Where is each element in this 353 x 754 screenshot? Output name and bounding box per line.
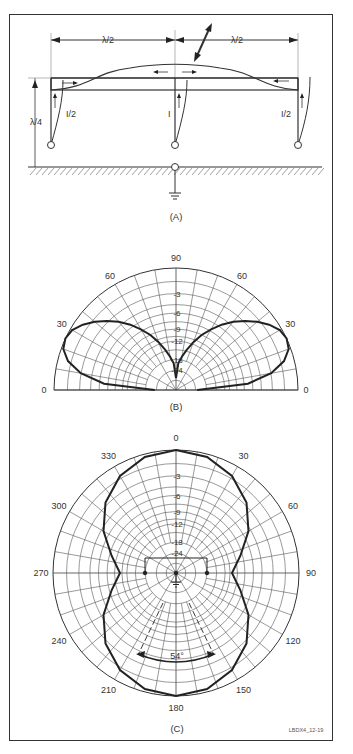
- angle-label: 270: [33, 568, 48, 578]
- db-ring-label: -24: [171, 366, 183, 375]
- height-label: λ/4: [30, 117, 42, 127]
- arrowhead-icon: [136, 651, 145, 658]
- span-left-label: λ/2: [102, 35, 114, 45]
- current-arrow-icon: [192, 70, 197, 74]
- angle-label: 210: [101, 685, 116, 695]
- angle-label: 240: [52, 636, 67, 646]
- db-ring-label: -24: [171, 549, 183, 558]
- angle-label: 60: [288, 501, 298, 511]
- angle-label: 90: [171, 253, 181, 263]
- feed-point-icon: [172, 164, 179, 171]
- antenna-figure: λ/2 λ/2 λ/4 I/2 I I/2 (A) 906060303000 -…: [0, 0, 353, 754]
- db-ring-label: -6: [173, 492, 181, 501]
- panel-a-caption: (A): [170, 211, 183, 222]
- current-arrow-icon: [300, 93, 304, 98]
- angle-label: 150: [236, 685, 251, 695]
- arrowhead-icon: [175, 37, 184, 43]
- base-node-icon: [48, 142, 55, 149]
- angle-label: 0: [303, 385, 308, 395]
- polarization-arrow-icon: [196, 27, 210, 58]
- base-node-icon: [295, 142, 302, 149]
- db-ring-label: -12: [171, 520, 183, 529]
- arrowhead-icon: [207, 651, 216, 658]
- angle-label: 0: [41, 385, 46, 395]
- panel-b-db-labels: -3-6-9-12-18-24: [171, 290, 183, 376]
- db-ring-label: -3: [173, 472, 181, 481]
- current-arrow-icon: [73, 81, 78, 85]
- angle-label: 300: [52, 501, 67, 511]
- panel-b-caption: (B): [170, 401, 183, 412]
- angle-label: 60: [105, 271, 115, 281]
- angle-label: 90: [306, 568, 316, 578]
- current-arrow-icon: [177, 93, 181, 98]
- panel-c-db-labels: -3-6-9-12-18-24: [171, 472, 183, 558]
- arrowhead-icon: [166, 37, 175, 43]
- angle-label: 0: [173, 433, 178, 443]
- current-arrow-icon: [53, 93, 57, 98]
- current-right-label: I/2: [281, 109, 291, 119]
- current-center-label: I: [168, 109, 171, 119]
- current-arrow-icon: [153, 70, 158, 74]
- angle-label: 330: [101, 451, 116, 461]
- base-node-icon: [172, 142, 179, 149]
- db-ring-label: -12: [171, 337, 183, 346]
- angle-label: 30: [57, 319, 67, 329]
- beamwidth-label: 54°: [170, 651, 184, 661]
- current-arrow-icon: [273, 79, 278, 83]
- angle-label: 30: [285, 319, 295, 329]
- db-ring-label: -9: [173, 325, 181, 334]
- angle-label: 180: [168, 703, 183, 713]
- arrowhead-icon: [51, 37, 60, 43]
- db-ring-label: -18: [171, 538, 183, 547]
- arrowhead-icon: [289, 37, 298, 43]
- angle-label: 60: [237, 271, 247, 281]
- arrowhead-icon: [32, 80, 38, 88]
- ground-symbol-icon: [169, 193, 181, 199]
- db-ring-label: -9: [173, 508, 181, 517]
- current-left-label: I/2: [66, 109, 76, 119]
- db-ring-label: -18: [171, 356, 183, 365]
- span-right-label: λ/2: [231, 35, 243, 45]
- figure-id: LBDX4_12-19: [289, 727, 324, 733]
- db-ring-label: -3: [173, 290, 181, 299]
- panel-c-caption: (C): [170, 723, 183, 734]
- angle-label: 30: [238, 451, 248, 461]
- db-ring-label: -6: [173, 309, 181, 318]
- angle-label: 120: [285, 636, 300, 646]
